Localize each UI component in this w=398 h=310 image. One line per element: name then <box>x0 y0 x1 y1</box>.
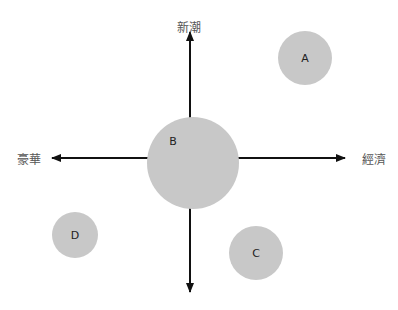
bubble-b <box>147 117 239 209</box>
axis-label-top: 新潮 <box>177 18 201 35</box>
bubble-label-c: C <box>252 247 260 260</box>
bubble-label-a: A <box>301 52 309 65</box>
axis-label-left: 豪華 <box>17 150 41 167</box>
positioning-map <box>0 0 398 310</box>
axis-label-right: 經濟 <box>362 150 386 167</box>
bubble-label-d: D <box>71 229 79 242</box>
bubble-label-b: B <box>169 135 177 148</box>
